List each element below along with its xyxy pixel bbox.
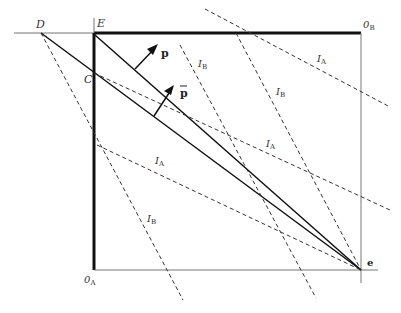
label-c: C [84,73,93,86]
edgeworth-box-diagram: D E C 0A 0B e p p IA IA IA IB IB IB [0,0,401,313]
ia-middle-curve [94,73,390,210]
label-ib-right: IB [275,86,285,99]
ib-middle-curve [180,45,316,298]
budget-line-p [95,35,361,270]
label-p: p [161,47,169,60]
label-e: E [96,17,105,30]
ib-right-curve [236,33,361,270]
arrowhead-p-icon [147,44,158,55]
label-ia-lower: IA [154,155,165,168]
label-origin-a: 0A [84,274,96,287]
label-ia-middle: IA [265,138,276,151]
label-ia-upper: IA [316,53,327,66]
label-ib-middle: IB [197,58,207,71]
arrowhead-p-bar-icon [164,85,174,95]
ia-lower-curve [97,145,361,270]
label-origin-b: 0B [363,19,375,32]
label-endowment: e [367,257,373,268]
label-ib-left: IB [146,213,156,226]
label-p-bar: p [180,87,188,100]
label-d: D [35,18,45,31]
